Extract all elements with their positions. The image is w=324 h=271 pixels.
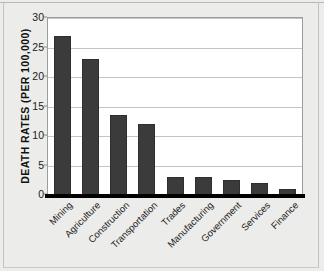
y-tick-label: 10 [24, 129, 44, 141]
gridline [48, 18, 302, 19]
chart-figure: DEATH RATES (PER 100,000) 051015202530 M… [0, 0, 324, 271]
bar [82, 59, 99, 195]
y-tick-label: 20 [24, 70, 44, 82]
figure-frame-left [3, 2, 4, 268]
x-axis-tick-labels: MiningAgricultureConstructionTransportat… [47, 198, 303, 268]
y-axis-ticks: 051015202530 [20, 17, 44, 196]
gridline [48, 48, 302, 49]
y-tick-label: 15 [24, 100, 44, 112]
y-tick-label: 5 [24, 159, 44, 171]
y-tick-label: 30 [24, 11, 44, 23]
y-tick-label: 0 [24, 188, 44, 200]
bar [54, 36, 71, 195]
y-tick-label: 25 [24, 41, 44, 53]
figure-frame-right [318, 2, 319, 268]
figure-frame-top [0, 2, 324, 3]
